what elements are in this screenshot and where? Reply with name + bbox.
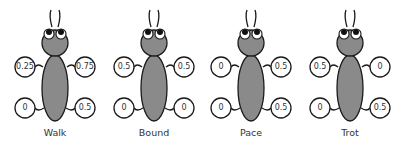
leg-phase-front-right: 0.5 <box>271 60 291 74</box>
leg-phase-rear-right: 0 <box>174 101 194 115</box>
gait-figure-bound: 0.5 0.5 0 0 Bound <box>104 0 204 145</box>
gait-label: Bound <box>104 127 204 138</box>
leg-phase-front-right: 0 <box>370 60 390 74</box>
leg-phase-rear-right: 0.5 <box>271 101 291 115</box>
gait-label: Trot <box>300 127 400 138</box>
leg-phase-rear-right: 0.5 <box>75 101 95 115</box>
gait-label: Pace <box>201 127 301 138</box>
leg-phase-rear-left: 0 <box>15 101 35 115</box>
gait-diagram: 0.25 0.75 0 0.5 Walk 0 <box>0 0 404 145</box>
gait-label: Walk <box>5 127 105 138</box>
leg-phase-front-right: 0.5 <box>174 60 194 74</box>
gait-figure-walk: 0.25 0.75 0 0.5 Walk <box>5 0 105 145</box>
leg-phase-rear-right: 0.5 <box>370 101 390 115</box>
leg-phase-front-left: 0.5 <box>114 60 134 74</box>
leg-phase-front-right: 0.75 <box>75 60 95 74</box>
leg-phase-rear-left: 0 <box>310 101 330 115</box>
gait-figure-trot: 0.5 0 0 0.5 Trot <box>300 0 400 145</box>
gait-figure-pace: 0 0.5 0 0.5 Pace <box>201 0 301 145</box>
leg-phase-front-left: 0 <box>211 60 231 74</box>
leg-phase-front-left: 0.25 <box>15 60 35 74</box>
leg-phase-rear-left: 0 <box>211 101 231 115</box>
leg-phase-front-left: 0.5 <box>310 60 330 74</box>
leg-phase-rear-left: 0 <box>114 101 134 115</box>
